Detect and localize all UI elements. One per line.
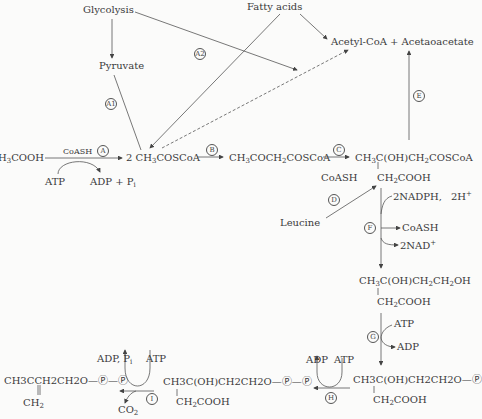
cofactor-atp-g: ATP	[394, 318, 414, 330]
step-label-a: A	[97, 145, 109, 157]
node-mevalonate-5pp-sidechain: CH2COOH	[176, 396, 230, 408]
cofactor-nadph: 2NADPH,	[393, 191, 442, 203]
cofactor-adp-pi-a: ADP + Pi	[90, 176, 136, 188]
node-leucine: Leucine	[280, 217, 320, 229]
node-pyruvate: Pyruvate	[99, 60, 144, 72]
cofactor-adp-pi-i: ADP, Pi	[97, 353, 132, 365]
step-label-a1: A1	[105, 98, 117, 110]
cofactor-h-plus: 2H+	[451, 191, 472, 203]
node-acetyl-scoa: 2 CH3COSCoA	[126, 152, 200, 164]
step-label-e: E	[413, 90, 425, 102]
cofactor-adp-g: ADP	[397, 341, 419, 353]
cofactor-nad: 2NAD+	[400, 240, 436, 252]
cofactor-atp-i: ATP	[146, 353, 166, 365]
step-label-b: B	[206, 144, 218, 156]
node-fatty-acids: Fatty acids	[247, 1, 302, 13]
node-mevalonate-5pp: CH3C(OH)CH2CH2O—Ⓟ—Ⓟ	[163, 376, 312, 388]
step-label-i: I	[146, 393, 158, 405]
cofactor-coash-a: CoASH	[63, 146, 92, 158]
node-mevalonate-5p: CH3C(OH)CH2CH2O—Ⓟ	[353, 374, 482, 386]
step-label-h: H	[325, 392, 337, 404]
node-mevalonate-sidechain: CH2COOH	[377, 296, 431, 308]
step-label-d: D	[328, 194, 340, 206]
node-acetoacetyl-scoa: CH3COCH2COSCoA	[229, 152, 330, 164]
node-mevalonate-5p-sidechain: CH2COOH	[373, 394, 427, 406]
node-mevalonate: CH3C(OH)CH2CH2OH	[359, 275, 471, 287]
step-label-g: G	[367, 331, 379, 343]
node-hmg-scoa-sidechain: CH2COOH	[377, 172, 431, 184]
step-label-c: C	[333, 144, 345, 156]
node-glycolysis: Glycolysis	[83, 4, 134, 16]
cofactor-adp-h: ADP	[306, 354, 328, 366]
node-isopentenyl-methylene: CH2	[23, 397, 44, 409]
cofactor-co2-i: CO2	[118, 404, 138, 416]
node-acetate: H3COOH	[0, 152, 44, 164]
cofactor-atp-h: ATP	[334, 354, 354, 366]
step-label-a2: A2	[194, 48, 206, 60]
node-hmg-scoa: CH3C(OH)CH2COSCoA	[355, 152, 473, 164]
cofactor-coash-f: CoASH	[402, 222, 438, 234]
node-isopentenyl-pp: CH3CCH2CH2O—Ⓟ—Ⓟ	[4, 375, 128, 387]
node-acetyl-coa-acetoacetate: Acetyl-CoA + Acetaoacetate	[331, 36, 474, 48]
cofactor-coash-c: CoASH	[321, 172, 357, 184]
cofactor-atp-a: ATP	[45, 176, 65, 188]
step-label-f: F	[364, 222, 376, 234]
